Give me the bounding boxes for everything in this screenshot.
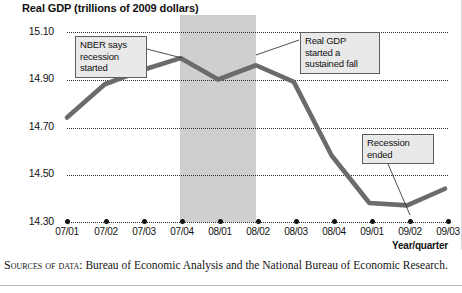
callout-recession-ended: Recession ended [362, 134, 434, 164]
figure-real-gdp-chart: Real GDP (trillions of 2009 dollars) 15.… [0, 0, 462, 293]
source-note-label: Sources of data: [4, 258, 83, 272]
source-note-text: Bureau of Economic Analysis and the Nati… [83, 259, 448, 271]
source-note: Sources of data: Bureau of Economic Anal… [4, 258, 462, 273]
callout-sustained-fall: Real GDP started a sustained fall [300, 32, 380, 74]
callout-nber-recession-started: NBER says recession started [75, 36, 147, 78]
